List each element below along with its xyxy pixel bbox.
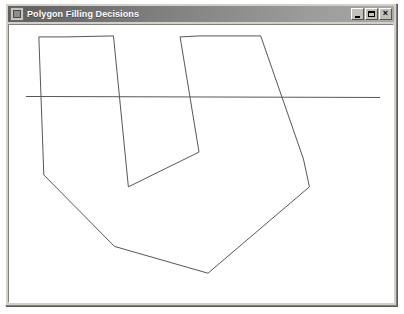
application-window: Polygon Filling Decisions × bbox=[5, 3, 397, 306]
title-bar[interactable]: Polygon Filling Decisions × bbox=[8, 6, 394, 22]
filled-polygon-outline bbox=[39, 36, 310, 273]
maximize-button[interactable] bbox=[365, 8, 378, 20]
minimize-button[interactable] bbox=[351, 8, 364, 20]
polygon-drawing bbox=[9, 25, 393, 302]
drawing-canvas[interactable] bbox=[8, 24, 394, 303]
scanline bbox=[26, 96, 380, 97]
window-controls: × bbox=[351, 8, 392, 20]
close-icon: × bbox=[380, 9, 391, 19]
application-icon bbox=[10, 7, 24, 21]
window-title: Polygon Filling Decisions bbox=[27, 9, 351, 19]
close-button[interactable]: × bbox=[379, 8, 392, 20]
minimize-icon bbox=[352, 9, 363, 19]
maximize-icon bbox=[366, 9, 377, 19]
